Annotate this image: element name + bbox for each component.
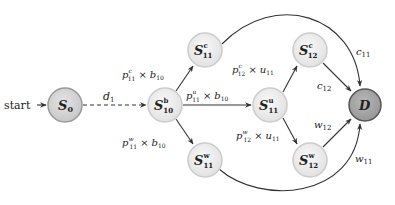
svg-text:D: D <box>358 98 371 113</box>
edge-s10b-s11c <box>176 66 193 91</box>
state-diagram: start S0 Sb10 Sc11 Su11 Sw11 Sc12 Sw12 D… <box>0 0 395 205</box>
node-s12c: Sc12 <box>293 33 327 67</box>
node-s11w: Sw11 <box>188 143 222 177</box>
edge-s11u-s12w <box>283 118 297 144</box>
node-s0: S0 <box>48 88 82 122</box>
node-d: D <box>349 89 381 121</box>
node-s10b: Sb10 <box>148 88 182 122</box>
node-s11u: Su11 <box>253 88 287 122</box>
edge-label-s11u-s12w: pw12×u11 <box>236 128 280 143</box>
node-s11c: Sc11 <box>188 33 222 67</box>
edge-label-s10-s11u: pu11×b10 <box>186 88 229 103</box>
node-s12w: Sw12 <box>293 143 327 177</box>
edge-label-w12: w12 <box>314 119 331 132</box>
edge-label-d1: d1 <box>103 90 115 104</box>
edge-label-s10-s11w: pw11×b10 <box>122 135 166 150</box>
edge-s11u-s12c <box>283 66 297 92</box>
edge-label-s11u-s12c: pc12×u11 <box>232 62 274 77</box>
edge-label-w11: w11 <box>355 153 372 166</box>
start-label: start <box>4 99 31 112</box>
edge-label-s10-s11c: pc11×b10 <box>122 67 164 82</box>
edge-label-c12: c12 <box>317 80 332 93</box>
edge-label-c11: c11 <box>356 46 371 59</box>
edge-s10b-s11w <box>176 119 193 144</box>
